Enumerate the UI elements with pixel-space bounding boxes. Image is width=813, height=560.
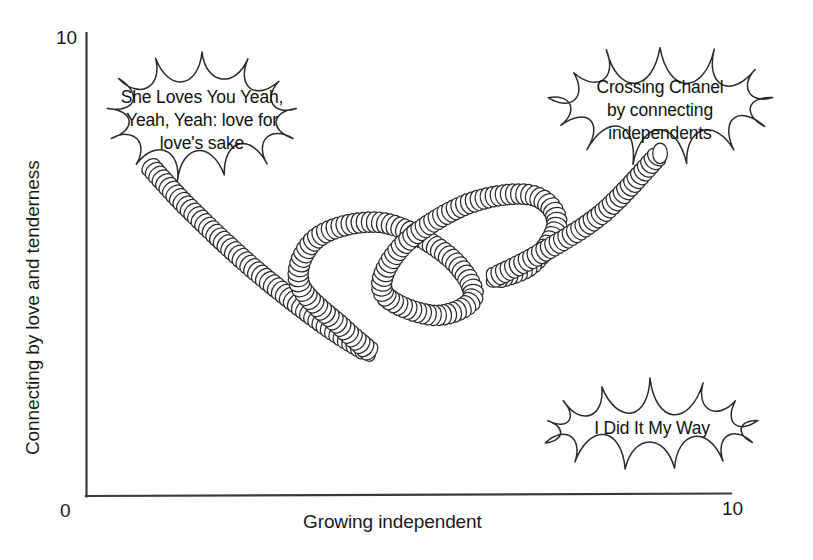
y-axis-tick-10: 10 [56,27,77,49]
figure-canvas: Connecting by love and tenderness Growin… [0,0,813,560]
x-axis-line [86,494,731,497]
x-axis-tick-0: 0 [60,500,71,522]
x-axis-title: Growing independent [303,511,482,533]
coil-spring-path [138,143,669,363]
chart-graphic [0,0,813,560]
x-axis-tick-10: 10 [722,498,743,520]
y-axis-title: Connecting by love and tenderness [22,160,44,455]
annotation-myway-cloud-shape [545,378,758,469]
annotation-love-cloud-shape [107,52,296,181]
coil-turn [653,143,668,163]
